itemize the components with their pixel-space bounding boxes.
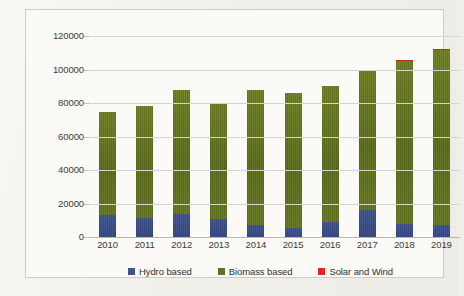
y-axis-tick-label: 20000 [28,199,84,209]
plot-area [89,36,460,237]
gridline-40000 [89,170,460,171]
stacked-bar[interactable] [173,90,190,237]
legend-swatch-icon [128,268,135,275]
bar-segment-biomass-based[interactable] [359,71,376,210]
gridline-100000 [89,70,460,71]
y-axis-tick-label: 80000 [28,98,84,108]
bar-segment-biomass-based[interactable] [136,106,153,217]
x-axis-label-2018: 2018 [386,239,423,250]
bar-segment-hydro-based[interactable] [396,224,413,237]
y-axis-tick-label: 0 [28,232,84,242]
x-axis-label-2014: 2014 [237,239,274,250]
legend-label: Hydro based [139,266,192,277]
x-axis-label-2013: 2013 [200,239,237,250]
x-axis-label-2015: 2015 [274,239,311,250]
chart-legend: Hydro basedBiomass basedSolar and Wind [51,266,464,277]
y-axis-tick-label: 120000 [28,31,84,41]
x-axis-label-2019: 2019 [423,239,460,250]
legend-item[interactable]: Hydro based [128,266,192,277]
legend-swatch-icon [218,268,225,275]
x-axis-line [89,237,460,238]
stacked-bar[interactable] [99,112,116,237]
bar-segment-hydro-based[interactable] [136,218,153,237]
y-axis-tick-label: 60000 [28,132,84,142]
stacked-bar[interactable] [285,93,302,237]
x-axis-label-2010: 2010 [89,239,126,250]
bar-segment-biomass-based[interactable] [247,90,264,226]
x-axis-label-2012: 2012 [163,239,200,250]
stacked-bar[interactable] [322,86,339,237]
gridline-80000 [89,103,460,104]
gridline-20000 [89,204,460,205]
bar-segment-biomass-based[interactable] [99,112,116,215]
bar-segment-hydro-based[interactable] [99,215,116,237]
y-axis: 020000400006000080000100000120000 [26,36,84,237]
bar-segment-biomass-based[interactable] [396,61,413,224]
y-axis-tick-label: 40000 [28,165,84,175]
gridline-120000 [89,36,460,37]
stacked-bar[interactable] [359,71,376,237]
x-axis-label-2017: 2017 [349,239,386,250]
gridline-60000 [89,137,460,138]
bar-segment-hydro-based[interactable] [173,214,190,237]
bar-segment-hydro-based[interactable] [285,228,302,237]
bar-segment-biomass-based[interactable] [433,50,450,225]
legend-item[interactable]: Solar and Wind [318,266,393,277]
x-axis-label-2011: 2011 [126,239,163,250]
chart-frame: 020000400006000080000100000120000 201020… [25,9,444,278]
stacked-bar[interactable] [396,60,413,237]
legend-label: Solar and Wind [329,266,393,277]
stacked-bar[interactable] [136,106,153,237]
bar-segment-hydro-based[interactable] [210,219,227,237]
bar-segment-biomass-based[interactable] [322,86,339,222]
x-axis-label-2016: 2016 [312,239,349,250]
bar-segment-hydro-based[interactable] [359,210,376,237]
stacked-bar[interactable] [433,49,450,237]
y-axis-tick-label: 100000 [28,65,84,75]
bar-segment-hydro-based[interactable] [247,225,264,237]
legend-label: Biomass based [229,266,293,277]
x-axis: 2010201120122013201420152016201720182019 [89,239,460,257]
legend-swatch-icon [318,268,325,275]
bar-segment-hydro-based[interactable] [322,222,339,237]
bar-segment-hydro-based[interactable] [433,225,450,237]
bar-segment-biomass-based[interactable] [173,90,190,214]
stacked-bar[interactable] [247,90,264,237]
bar-segment-biomass-based[interactable] [285,93,302,228]
legend-item[interactable]: Biomass based [218,266,293,277]
bar-segment-biomass-based[interactable] [210,103,227,219]
